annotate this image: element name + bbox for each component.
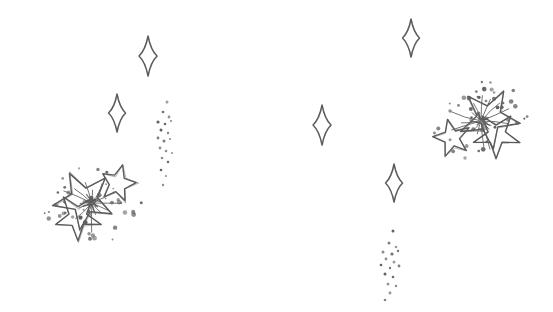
sparkle-artwork — [0, 0, 553, 312]
background-rect — [0, 0, 553, 312]
illustration-canvas: Hand-drawn sparkle and star burst illust… — [0, 0, 553, 312]
